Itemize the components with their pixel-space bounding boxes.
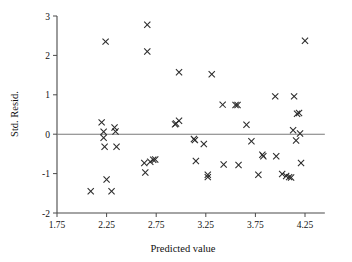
data-point-marker [209, 71, 215, 77]
x-tick-label: 2.75 [148, 220, 165, 230]
x-axis-title: Predicted value [150, 243, 215, 254]
data-point-marker [290, 127, 296, 133]
y-tick-label: -2 [42, 209, 50, 219]
data-point-marker [88, 188, 94, 194]
data-point-marker [108, 188, 114, 194]
x-tick-label: 3.75 [247, 220, 264, 230]
y-tick-label: -1 [42, 169, 50, 179]
data-point-marker [248, 138, 254, 144]
data-point-marker [112, 128, 118, 134]
data-point-marker [102, 144, 108, 150]
data-point-marker [113, 144, 119, 150]
data-point-marker [293, 137, 299, 143]
data-point-marker [220, 102, 226, 108]
y-tick-label: 1 [45, 90, 50, 100]
data-point-marker [141, 160, 147, 166]
scatter-plot-canvas: 1.752.252.753.253.754.25 3210-1-2 Predic… [0, 0, 352, 262]
data-point-marker [302, 38, 308, 44]
data-point-marker [142, 169, 148, 175]
x-tick-label: 3.25 [197, 220, 214, 230]
data-point-marker [101, 135, 107, 141]
data-point-marker [176, 69, 182, 75]
y-tick-label: 3 [45, 12, 50, 22]
data-point-marker [235, 162, 241, 168]
y-tick-label: 0 [45, 130, 50, 140]
data-point-marker [176, 118, 182, 124]
data-point-marker [273, 153, 279, 159]
data-point-marker [144, 48, 150, 54]
data-point-marker [104, 176, 110, 182]
x-tick-label: 1.75 [49, 220, 66, 230]
data-point-marker [144, 22, 150, 28]
data-point-marker [297, 130, 303, 136]
data-point-marker [221, 161, 227, 167]
plot-axes [53, 16, 325, 217]
data-point-marker [201, 141, 207, 147]
data-point-marker [193, 158, 199, 164]
x-tick-label: 4.25 [297, 220, 314, 230]
y-tick-label: 2 [45, 51, 50, 61]
y-axis-title: Std. Resid. [9, 91, 20, 137]
data-point-layer [88, 22, 308, 195]
data-point-marker [298, 160, 304, 166]
y-axis-tick-labels: 3210-1-2 [42, 12, 50, 219]
data-point-marker [103, 39, 109, 45]
data-point-marker [243, 122, 249, 128]
x-axis-tick-labels: 1.752.252.753.253.754.25 [49, 220, 314, 230]
data-point-marker [255, 172, 261, 178]
residual-scatter-figure: 1.752.252.753.253.754.25 3210-1-2 Predic… [0, 0, 352, 262]
data-point-marker [99, 119, 105, 125]
data-point-marker [291, 93, 297, 99]
data-point-marker [272, 93, 278, 99]
x-tick-label: 2.25 [98, 220, 115, 230]
